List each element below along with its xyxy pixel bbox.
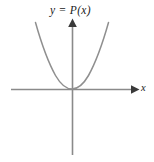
x-axis-arrowhead bbox=[131, 85, 140, 94]
x-axis-label: x bbox=[141, 82, 146, 93]
plot-canvas bbox=[0, 0, 154, 162]
parabola-figure: y = P(x) x bbox=[0, 0, 154, 162]
y-axis-arrowhead bbox=[68, 19, 77, 28]
function-label: y = P(x) bbox=[50, 4, 91, 16]
